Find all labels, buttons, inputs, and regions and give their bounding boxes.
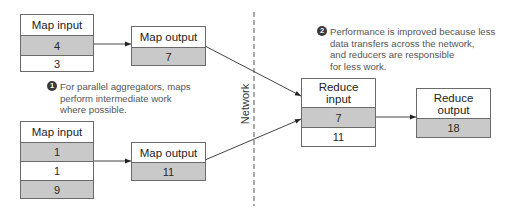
annotation-2: 2 Performance is improved because less d… [330, 26, 495, 72]
map-input-title: Map input [21, 15, 93, 35]
map-output-title: Map output [132, 27, 205, 47]
reduce-output-title-line: output [438, 104, 470, 116]
map-output-box-2: Map output 11 [131, 142, 206, 181]
annotation-line: data transfers across the network, [330, 38, 495, 50]
map-output-value: 7 [132, 47, 205, 65]
reduce-input-value: 11 [302, 127, 375, 146]
reduce-input-title-line: input [326, 93, 351, 105]
reduce-input-title: Reduce input [302, 79, 375, 107]
reduce-output-value: 18 [417, 118, 490, 137]
map-output-title: Map output [132, 143, 205, 162]
annotation-line: perform intermediate work [60, 93, 191, 105]
map-input-title: Map input [21, 122, 93, 142]
map-input-value: 4 [21, 35, 93, 55]
reduce-input-value: 7 [302, 107, 375, 127]
map-input-box-2: Map input 1 1 9 [20, 121, 94, 199]
annotation-line: for less work. [330, 61, 495, 73]
reduce-input-box: Reduce input 7 11 [301, 78, 376, 147]
map-input-value: 3 [21, 55, 93, 71]
map-input-value: 1 [21, 161, 93, 180]
map-output-box-1: Map output 7 [131, 26, 206, 66]
map-input-box-1: Map input 4 3 [20, 14, 94, 72]
annotation-line: Performance is improved because less [330, 26, 495, 38]
reduce-output-box: Reduce output 18 [416, 88, 491, 138]
annotation-number-badge: 2 [317, 26, 327, 36]
annotation-line: For parallel aggregators, maps [60, 81, 191, 93]
map-input-value: 9 [21, 180, 93, 198]
arrow-output1-to-reduce [205, 46, 301, 96]
reduce-output-title-line: Reduce [434, 92, 474, 104]
map-input-value: 1 [21, 142, 93, 161]
reduce-output-title: Reduce output [417, 89, 490, 118]
reduce-input-title-line: Reduce [319, 81, 359, 93]
network-label: Network [239, 84, 251, 124]
arrow-output2-to-reduce [205, 119, 301, 160]
annotation-number-badge: 1 [47, 81, 57, 91]
map-output-value: 11 [132, 162, 205, 180]
annotation-1: 1 For parallel aggregators, maps perform… [60, 81, 191, 116]
annotation-line: and reducers are responsible [330, 49, 495, 61]
annotation-line: where possible. [60, 104, 191, 116]
